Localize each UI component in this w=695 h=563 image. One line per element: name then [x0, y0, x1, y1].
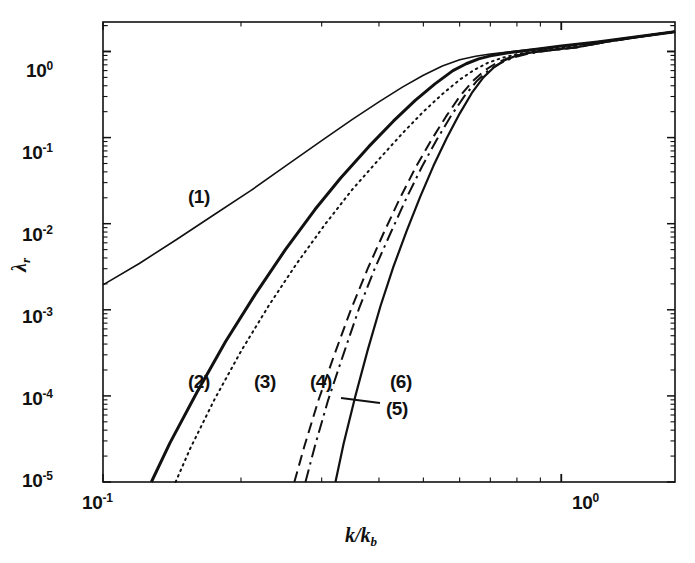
plot-canvas [0, 0, 695, 563]
curve-3 [176, 32, 675, 482]
figure-container: 100 10-1 10-2 10-3 10-4 10-5 10-1 100 k/… [0, 0, 695, 563]
curve-5 [305, 32, 675, 482]
y-axis-title-subscript: r [18, 258, 33, 263]
x-axis-title-text: k/k [345, 524, 371, 546]
annotation-leader-5 [341, 398, 380, 403]
y-axis-title-text: λ [8, 263, 30, 272]
y-tick-label-1e-4: 10-4 [22, 388, 53, 410]
curve-label-5: (5) [386, 398, 408, 420]
curve-label-3: (3) [254, 371, 276, 393]
y-tick-label-1e-1: 10-1 [22, 142, 53, 164]
curve-label-2: (2) [188, 371, 210, 393]
curve-2 [151, 32, 675, 482]
annotation-leaders-group [341, 398, 380, 403]
x-axis-title: k/kb [345, 524, 377, 547]
y-tick-label-1e-2: 10-2 [22, 224, 53, 246]
y-tick-label-1e-3: 10-3 [22, 306, 53, 328]
curve-label-4: (4) [310, 371, 332, 393]
y-tick-label-1e-5: 10-5 [22, 470, 53, 492]
curve-1 [103, 32, 675, 285]
y-tick-label-1e0: 100 [26, 60, 53, 82]
y-axis-title: λr [8, 258, 31, 272]
x-tick-label-1e0: 100 [572, 492, 599, 514]
curve-label-1: (1) [188, 186, 210, 208]
x-axis-title-subscript: b [371, 534, 378, 549]
curve-label-6: (6) [390, 371, 412, 393]
x-tick-label-1e-1: 10-1 [82, 492, 113, 514]
